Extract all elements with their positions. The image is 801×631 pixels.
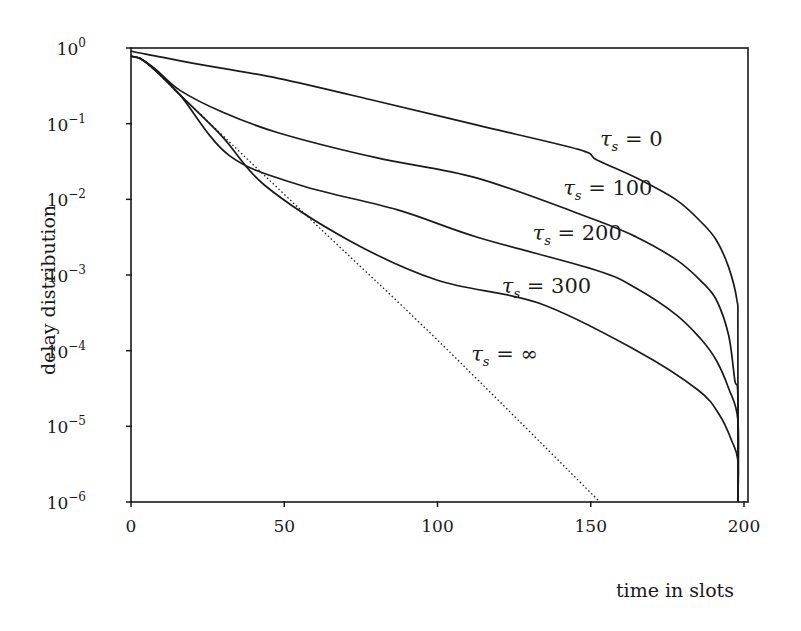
y-tick-label: 10−6 bbox=[47, 490, 86, 513]
x-axis-label: time in slots bbox=[616, 579, 734, 601]
y-tick-label: 10−5 bbox=[47, 414, 86, 437]
curve-tau-300 bbox=[131, 56, 738, 502]
curve-labels: τs = 0τs = 100τs = 200τs = 300τs = ∞ bbox=[471, 127, 662, 370]
y-axis-ticks: 10010−110−210−310−410−510−6 bbox=[47, 36, 132, 513]
y-axis-label: delay distribution bbox=[37, 205, 59, 375]
x-axis-ticks: 050100150200 bbox=[126, 501, 761, 536]
x-tick-label: 50 bbox=[273, 516, 295, 536]
curve-tau-0 bbox=[131, 51, 738, 502]
x-tick-label: 100 bbox=[421, 516, 453, 536]
curve-label-tau-0: τs = 0 bbox=[600, 127, 663, 154]
x-tick-label: 150 bbox=[575, 516, 607, 536]
curve-label-tau-100: τs = 100 bbox=[563, 176, 652, 203]
curve-label-tau-300: τs = 300 bbox=[502, 274, 591, 301]
y-tick-label: 100 bbox=[57, 36, 86, 59]
x-tick-label: 0 bbox=[126, 516, 137, 536]
delay-distribution-chart: 10010−110−210−310−410−510−6 050100150200… bbox=[0, 0, 801, 631]
curve-label-tau-200: τs = 200 bbox=[533, 221, 622, 248]
curve-label-tau-inf: τs = ∞ bbox=[471, 342, 538, 369]
x-tick-label: 200 bbox=[728, 516, 760, 536]
y-tick-label: 10−1 bbox=[47, 112, 86, 135]
curves bbox=[131, 51, 739, 502]
